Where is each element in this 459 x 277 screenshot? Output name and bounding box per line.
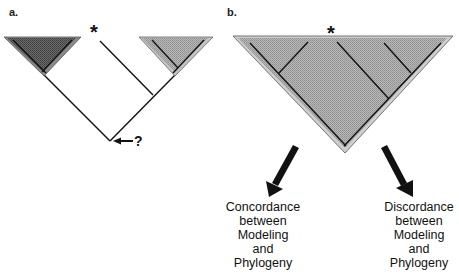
concordance-arrow-icon xyxy=(266,145,299,197)
caption-line: Phylogeny xyxy=(208,257,318,271)
panel-b-label: b. xyxy=(227,6,237,18)
root-arrow-icon xyxy=(113,138,133,145)
caption-line: between xyxy=(208,215,318,229)
left-branch xyxy=(44,75,110,141)
caption-line: Modeling xyxy=(364,229,459,243)
discordance-caption: Discordance between Modeling and Phyloge… xyxy=(364,201,459,271)
caption-line: and xyxy=(208,243,318,257)
combined-clade-triangle xyxy=(233,36,453,153)
question-mark: ? xyxy=(134,133,143,149)
caption-line: and xyxy=(364,243,459,257)
discordance-arrow-icon xyxy=(381,145,413,197)
panel-a-label: a. xyxy=(9,6,18,18)
light-clade-triangle xyxy=(139,37,213,76)
asterisk-icon: * xyxy=(90,22,98,42)
asterisk-icon: * xyxy=(327,23,335,43)
inserted-branch xyxy=(100,41,153,95)
caption-line: Phylogeny xyxy=(364,257,459,271)
panel-b xyxy=(233,36,453,197)
phylogeny-figure: a. * ? b. * Concordance between Modeling… xyxy=(0,0,459,277)
caption-line: Modeling xyxy=(208,229,318,243)
caption-line: Concordance xyxy=(208,201,318,215)
panel-a-tree-branches xyxy=(44,41,175,141)
concordance-caption: Concordance between Modeling and Phyloge… xyxy=(208,201,318,271)
caption-line: Discordance xyxy=(364,201,459,215)
panel-a xyxy=(4,37,213,145)
dark-clade-triangle xyxy=(4,37,81,76)
caption-line: between xyxy=(364,215,459,229)
